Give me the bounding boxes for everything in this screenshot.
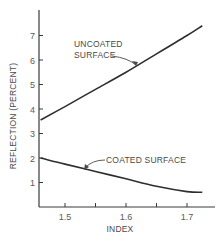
- uncoated-arrow: [112, 56, 136, 65]
- x-tick-label: 1.6: [120, 212, 133, 222]
- y-tick-label: 3: [30, 129, 35, 139]
- coated-label: COATED SURFACE: [106, 155, 186, 165]
- x-axis-title: INDEX: [107, 224, 134, 234]
- y-tick-label: 7: [30, 31, 35, 41]
- x-ticks: 1.51.61.7: [59, 203, 194, 222]
- y-axis-title: REFLECTION (PERCENT): [8, 63, 18, 169]
- uncoated-label-line2: SURFACE: [74, 50, 116, 60]
- x-tick-label: 1.7: [181, 212, 194, 222]
- uncoated-label-line1: UNCOATED: [74, 39, 123, 49]
- x-tick-label: 1.5: [59, 212, 72, 222]
- y-tick-label: 6: [30, 56, 35, 66]
- reflection-chart: 1234567 1.51.61.7 UNCOATED SURFACE COATE…: [0, 0, 223, 246]
- y-tick-label: 2: [30, 154, 35, 164]
- y-tick-label: 5: [30, 80, 35, 90]
- y-ticks: 1234567: [30, 31, 43, 188]
- y-tick-label: 4: [30, 105, 35, 115]
- y-tick-label: 1: [30, 178, 35, 188]
